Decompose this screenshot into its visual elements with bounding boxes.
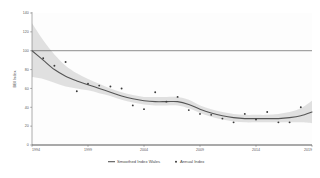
- data-point: [199, 113, 201, 115]
- y-tick-label: 60: [25, 87, 29, 91]
- data-point: [154, 91, 156, 93]
- x-tick-label: 1994: [32, 148, 40, 152]
- legend-dot-marker: [175, 161, 177, 163]
- data-point: [277, 121, 279, 123]
- data-point: [165, 101, 167, 103]
- x-tick-label: 2019: [304, 148, 312, 152]
- x-tick-label: 2014: [252, 148, 260, 152]
- data-point: [132, 104, 134, 106]
- data-point: [121, 87, 123, 89]
- y-tick-label: 100: [23, 49, 29, 53]
- y-tick-label: 120: [23, 30, 29, 34]
- x-tick-label: 2004: [140, 148, 148, 152]
- data-point: [289, 121, 291, 123]
- data-point: [109, 86, 111, 88]
- data-point: [42, 57, 44, 59]
- data-point: [188, 109, 190, 111]
- y-axis-title: BBI Index: [12, 71, 17, 88]
- legend-label-smoothed: Smoothed Index Wales: [117, 159, 160, 164]
- chart-figure: 020406080100120140 199419992004200920142…: [0, 0, 320, 178]
- legend-label-annual: Annual Index: [180, 159, 205, 164]
- data-point: [266, 111, 268, 113]
- data-point: [143, 108, 145, 110]
- data-point: [221, 118, 223, 120]
- y-tick-label: 0: [27, 143, 29, 147]
- data-point: [53, 65, 55, 67]
- data-point: [300, 106, 302, 108]
- x-tick-label: 1999: [84, 148, 92, 152]
- chart-legend: Smoothed Index Wales Annual Index: [108, 159, 205, 164]
- data-point: [255, 119, 257, 121]
- data-point: [87, 83, 89, 85]
- y-tick-label: 40: [25, 106, 29, 110]
- data-point: [98, 85, 100, 87]
- data-point: [233, 121, 235, 123]
- data-point: [76, 90, 78, 92]
- y-tick-label: 140: [23, 11, 29, 15]
- data-point: [177, 96, 179, 98]
- data-point: [244, 113, 246, 115]
- y-tick-label: 80: [25, 68, 29, 72]
- x-tick-label: 2009: [196, 148, 204, 152]
- data-point: [210, 114, 212, 116]
- data-point: [65, 61, 67, 63]
- y-tick-label: 20: [25, 124, 29, 128]
